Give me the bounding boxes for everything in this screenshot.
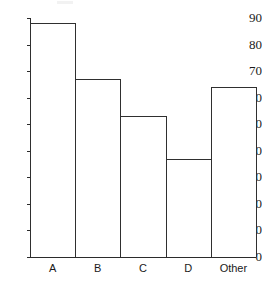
x-tick-label: C bbox=[120, 262, 165, 274]
x-tick-label: B bbox=[75, 262, 120, 274]
plot-area: 0102030405060708090 ABCDOther bbox=[0, 0, 262, 286]
bar bbox=[75, 79, 121, 257]
x-tick-label: A bbox=[30, 262, 75, 274]
bar bbox=[120, 116, 166, 257]
x-tick-label: D bbox=[166, 262, 211, 274]
bars-layer bbox=[30, 0, 256, 286]
bar bbox=[166, 159, 212, 257]
x-tick-label: Other bbox=[211, 262, 256, 274]
bar-chart: 0102030405060708090 ABCDOther bbox=[0, 0, 262, 286]
bar bbox=[211, 87, 257, 257]
bar bbox=[30, 23, 76, 257]
